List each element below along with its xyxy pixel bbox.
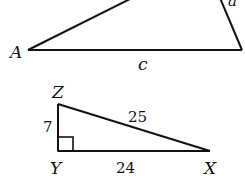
geometry-figure: A c a Z Y X 7 25 24 [0,0,245,185]
vertex-z-label: Z [51,82,65,102]
vertex-x-label: X [202,158,217,178]
triangle-xyz: Z Y X 7 25 24 [43,82,217,178]
side-c-label: c [138,54,148,74]
side-zx-length: 25 [128,108,147,126]
vertex-a-label: A [8,42,22,62]
side-zy-length: 7 [43,118,53,136]
triangle-abc: A c a [8,0,242,74]
side-b-line [28,0,132,50]
vertex-y-label: Y [50,158,63,178]
side-yx-length: 24 [116,159,135,177]
right-angle-marker [58,137,73,151]
side-a-label: a [228,0,237,10]
